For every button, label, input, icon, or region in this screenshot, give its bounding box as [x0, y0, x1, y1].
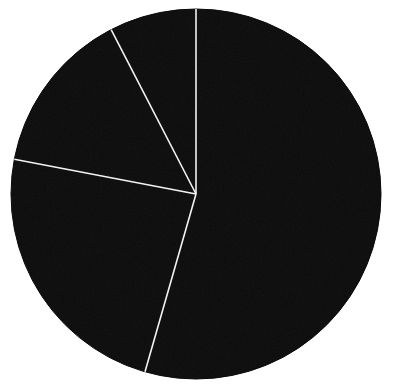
pie-chart-figure: Slice 1 Slice 2 Slice 3 Slice 4	[0, 0, 393, 391]
pie-chart-canvas	[0, 0, 393, 391]
